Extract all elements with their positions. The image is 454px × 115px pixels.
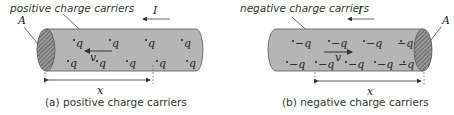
panel-b-area-label: A xyxy=(441,14,450,27)
svg-text:q: q xyxy=(184,37,191,50)
svg-text:q: q xyxy=(99,57,106,70)
svg-text:−q: −q xyxy=(366,37,382,50)
panel-a-cross-section xyxy=(37,29,55,71)
panel-b: negative charge carriers I A −q −q −q −q… xyxy=(240,2,450,108)
svg-text:−q: −q xyxy=(348,58,364,71)
charge-carriers-diagram: positive charge carriers I A q q q q q q… xyxy=(0,0,454,115)
svg-text:q: q xyxy=(70,57,77,70)
svg-text:−q: −q xyxy=(318,58,334,71)
panel-b-current-label: I xyxy=(357,4,363,17)
svg-text:q: q xyxy=(189,57,196,70)
svg-text:−q: −q xyxy=(289,58,305,71)
svg-text:−q: −q xyxy=(377,58,393,71)
svg-text:q: q xyxy=(129,57,136,70)
svg-text:−q: −q xyxy=(398,58,414,71)
panel-b-caption: (b) negative charge carriers xyxy=(282,96,429,108)
svg-text:−q: −q xyxy=(397,37,413,50)
panel-a-velocity-label: v xyxy=(90,51,97,64)
panel-a-area-leader xyxy=(24,27,38,44)
svg-text:q: q xyxy=(112,37,119,50)
panel-b-cross-section xyxy=(414,29,432,71)
panel-a: positive charge carriers I A q q q q q q… xyxy=(9,2,203,108)
panel-a-caption: (a) positive charge carriers xyxy=(45,96,187,108)
panel-a-area-label: A xyxy=(17,14,26,27)
svg-text:−q: −q xyxy=(295,37,311,50)
panel-a-title-label: positive charge carriers xyxy=(9,2,135,14)
svg-text:q: q xyxy=(148,37,155,50)
svg-text:q: q xyxy=(76,37,83,50)
panel-b-velocity-label: v xyxy=(335,51,342,64)
svg-text:−q: −q xyxy=(331,37,347,50)
svg-text:q: q xyxy=(159,57,166,70)
panel-a-current-label: I xyxy=(152,4,158,17)
panel-b-title-label: negative charge carriers xyxy=(240,2,369,14)
